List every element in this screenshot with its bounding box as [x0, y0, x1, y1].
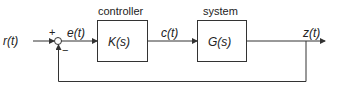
minus-sign: −	[62, 44, 68, 56]
block-diagram: r(t) + − e(t) controller K(s) c(t) syste…	[0, 0, 339, 87]
feedback-path	[59, 41, 307, 82]
system-caption: system	[203, 5, 238, 17]
system-transfer: G(s)	[208, 35, 231, 49]
error-label: e(t)	[67, 26, 85, 40]
plus-sign: +	[49, 26, 55, 38]
output-label: z(t)	[302, 26, 320, 40]
controller-caption: controller	[98, 5, 144, 17]
control-label: c(t)	[161, 26, 178, 40]
controller-transfer: K(s)	[108, 35, 130, 49]
diagram-canvas: r(t) + − e(t) controller K(s) c(t) syste…	[0, 0, 339, 87]
input-label: r(t)	[3, 34, 18, 48]
summing-junction	[55, 38, 62, 45]
